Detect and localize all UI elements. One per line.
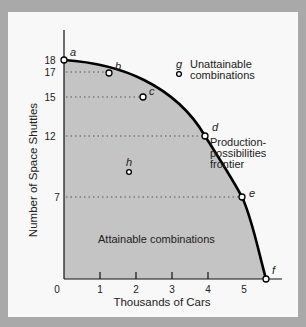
x-tick-2: 2 (133, 284, 139, 295)
point-h-label: h (126, 156, 132, 168)
y-tick-15: 15 (44, 92, 56, 103)
point-f-label: f (272, 264, 276, 276)
point-c-label: c (149, 85, 155, 97)
point-a-label: a (70, 46, 76, 58)
x-tick-3: 3 (169, 284, 175, 295)
y-axis-title: Number of Space Shuttles (27, 103, 39, 237)
point-e-label: e (249, 187, 255, 199)
point-g-label: g (176, 58, 183, 70)
y-tick-18: 18 (44, 55, 56, 66)
point-d-label: d (212, 121, 219, 133)
ppf-label-3: frontier (210, 158, 245, 170)
x-axis-title: Thousands of Cars (113, 296, 210, 308)
attainable-label: Attainable combinations (98, 233, 215, 245)
x-tick-1: 1 (97, 284, 103, 295)
point-b-label: b (115, 60, 121, 72)
y-tick-7: 7 (54, 192, 60, 203)
y-tick-17: 17 (44, 67, 56, 78)
x-tick-0: 0 (54, 284, 60, 295)
unattainable-label-2: combinations (190, 69, 255, 81)
x-tick-4: 4 (205, 284, 211, 295)
ppf-chart: a b c d e f g h Unattainable combination… (0, 0, 306, 327)
y-tick-12: 12 (44, 131, 56, 142)
x-tick-5: 5 (241, 284, 247, 295)
